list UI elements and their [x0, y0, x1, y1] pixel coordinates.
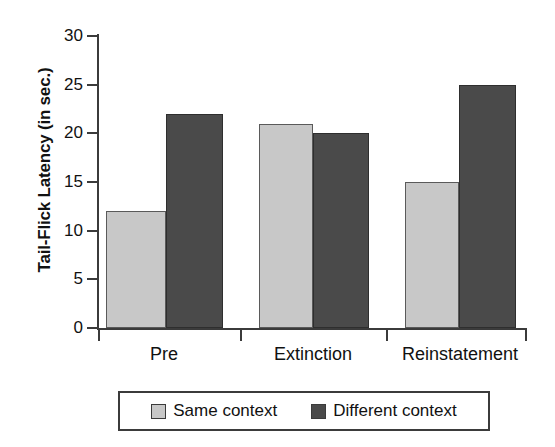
chart-legend: Same contextDifferent context	[118, 391, 490, 431]
x-axis-tick	[525, 330, 527, 341]
x-axis-tick	[386, 330, 388, 341]
y-axis-tick-label: 15	[43, 173, 83, 190]
dark-gray-swatch	[311, 404, 326, 419]
y-axis-tick-label: 20	[43, 124, 83, 141]
x-axis-line	[97, 328, 527, 330]
plot-area	[97, 36, 525, 328]
y-axis-tick-label: 10	[43, 222, 83, 239]
bar-pre-same	[106, 211, 166, 328]
legend-label: Same context	[173, 402, 277, 420]
legend-item-same-context[interactable]: Same context	[151, 402, 277, 420]
bar-extinction-same	[259, 124, 313, 328]
legend-item-different-context[interactable]: Different context	[311, 402, 456, 420]
light-gray-swatch	[151, 404, 166, 419]
bar-pre-different	[166, 114, 223, 328]
x-axis-category-extinction: Extinction	[233, 343, 393, 365]
y-axis-tick-label: 25	[43, 76, 83, 93]
y-axis-tick-label: 0	[43, 319, 83, 336]
legend-label: Different context	[333, 402, 456, 420]
x-axis-tick	[240, 330, 242, 341]
y-axis-tick-label: 5	[43, 270, 83, 287]
bar-reinstatement-different	[459, 85, 516, 328]
bar-reinstatement-same	[405, 182, 459, 328]
bar-extinction-different	[313, 133, 369, 328]
x-axis-category-pre: Pre	[84, 343, 244, 365]
x-axis-tick	[98, 330, 100, 341]
y-axis-tick-label: 30	[43, 27, 83, 44]
bar-chart-figure: Tail-Flick Latency (in sec.) 05101520253…	[0, 0, 555, 447]
x-axis-category-reinstatement: Reinstatement	[380, 343, 540, 365]
